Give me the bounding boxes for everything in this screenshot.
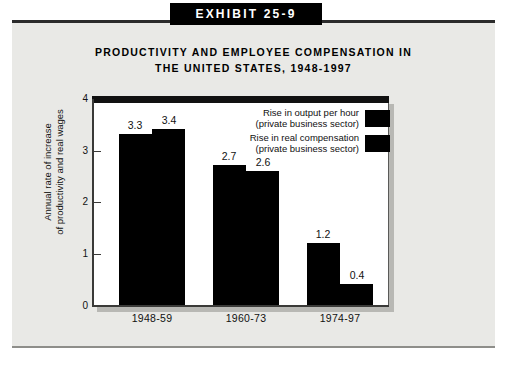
legend-item-compensation: Rise in real compensation (private busin… [240, 132, 390, 154]
chart-title: PRODUCTIVITY AND EMPLOYEE COMPENSATION I… [12, 44, 495, 76]
y-axis-line [92, 99, 94, 307]
bar-value-1960-73-compensation: 2.6 [246, 157, 280, 168]
legend-swatch-output [365, 110, 390, 127]
legend-item-compensation-line-2: (private business sector) [250, 143, 359, 154]
y-tick-mark-3 [93, 151, 101, 152]
bar-1974-97-compensation [340, 284, 373, 305]
y-tick-mark-1 [93, 254, 101, 255]
chart-title-line-1: PRODUCTIVITY AND EMPLOYEE COMPENSATION I… [12, 44, 495, 60]
bar-1960-73-output [213, 165, 246, 305]
y-tick-label-2: 2 [66, 197, 88, 207]
y-axis-title: Annual rate of increase of productivity … [42, 77, 66, 267]
y-tick-mark-2 [93, 202, 101, 203]
legend-item-compensation-label: Rise in real compensation (private busin… [250, 132, 365, 154]
x-tick-label-1960-73: 1960-73 [201, 312, 291, 324]
x-tick-label-1974-97: 1974-97 [295, 312, 385, 324]
x-axis-line [92, 305, 389, 307]
y-tick-label-3: 3 [66, 146, 88, 156]
exhibit-banner: EXHIBIT 25-9 [170, 3, 322, 25]
y-axis-title-line-1: Annual rate of increase [42, 123, 53, 221]
y-tick-label-0: 0 [66, 301, 88, 311]
bottom-divider-rule [12, 346, 495, 348]
legend-item-compensation-line-1: Rise in real compensation [250, 132, 359, 143]
chart-title-line-2: THE UNITED STATES, 1948-1997 [12, 60, 495, 76]
exhibit-figure: EXHIBIT 25-9 PRODUCTIVITY AND EMPLOYEE C… [0, 0, 507, 369]
plot-top-cap [92, 96, 389, 103]
bar-1948-59-output [119, 134, 152, 305]
legend-item-output-line-1: Rise in output per hour [256, 107, 359, 118]
bar-1948-59-compensation [152, 129, 185, 305]
bar-1974-97-output [307, 243, 340, 305]
legend-swatch-compensation [365, 135, 390, 152]
bar-1960-73-compensation [246, 171, 279, 305]
bar-value-1974-97-output: 1.2 [306, 229, 340, 240]
y-tick-label-4: 4 [66, 94, 88, 104]
x-tick-label-1948-59: 1948-59 [107, 312, 197, 324]
chart-legend: Rise in output per hour (private busines… [240, 107, 390, 157]
y-tick-label-1: 1 [66, 249, 88, 259]
bar-value-1948-59-compensation: 3.4 [152, 115, 186, 126]
legend-item-output-line-2: (private business sector) [256, 118, 359, 129]
bar-value-1948-59-output: 3.3 [118, 120, 152, 131]
legend-item-output-label: Rise in output per hour (private busines… [256, 107, 365, 129]
bar-value-1974-97-compensation: 0.4 [340, 270, 374, 281]
legend-item-output: Rise in output per hour (private busines… [240, 107, 390, 129]
y-axis-title-line-2: of productivity and real wages [54, 109, 65, 235]
